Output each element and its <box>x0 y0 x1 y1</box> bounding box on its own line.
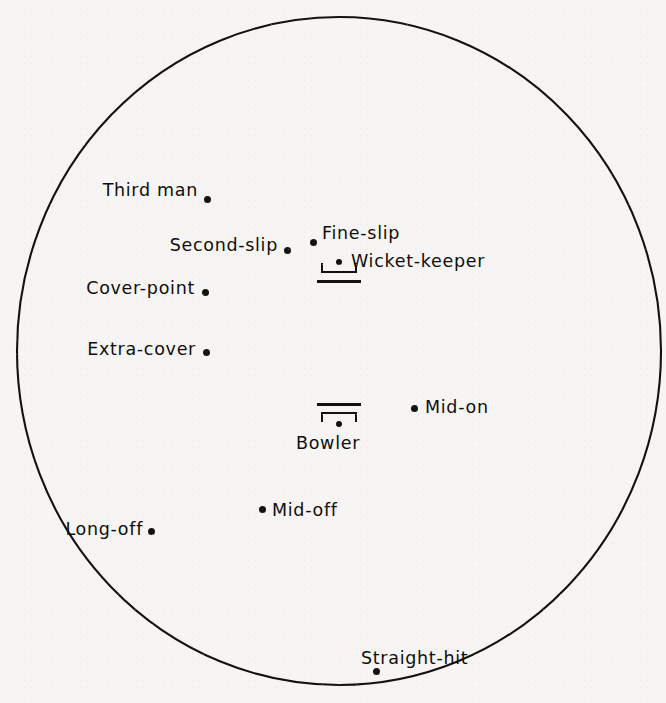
keeper-stumps-dot <box>336 259 342 265</box>
cricket-field-diagram: Third manFine-slipSecond-slipWicket-keep… <box>0 0 666 703</box>
position-label-cover-point: Cover-point <box>86 280 195 298</box>
position-marker-mid-off <box>259 506 266 513</box>
position-marker-mid-on <box>411 405 418 412</box>
position-marker-cover-point <box>202 289 209 296</box>
bowler-bowling-crease <box>317 403 361 406</box>
position-label-straight-hit: Straight-hit <box>361 650 468 668</box>
position-label-third-man: Third man <box>103 182 198 200</box>
position-label-extra-cover: Extra-cover <box>87 341 196 359</box>
position-label-mid-on: Mid-on <box>425 399 489 417</box>
bowler-return-crease-right <box>355 412 357 422</box>
position-marker-extra-cover <box>203 349 210 356</box>
bowler-popping-crease <box>321 412 357 414</box>
keeper-return-crease-left <box>321 263 323 273</box>
position-label-second-slip: Second-slip <box>170 237 278 255</box>
position-label-long-off: Long-off <box>65 521 143 539</box>
position-label-mid-off: Mid-off <box>272 502 338 520</box>
position-label-fine-slip: Fine-slip <box>322 225 400 243</box>
position-marker-fine-slip <box>310 239 317 246</box>
position-marker-third-man <box>204 196 211 203</box>
position-marker-second-slip <box>284 247 291 254</box>
position-label-wicket-keeper: Wicket-keeper <box>351 253 485 271</box>
bowler-return-crease-left <box>321 412 323 422</box>
position-label-bowler: Bowler <box>296 435 360 453</box>
bowler-stumps-dot <box>336 421 342 427</box>
bowler-crease <box>317 400 361 430</box>
position-marker-straight-hit <box>373 668 380 675</box>
keeper-popping-crease <box>321 271 357 273</box>
keeper-bowling-crease <box>317 280 361 283</box>
position-marker-long-off <box>148 528 155 535</box>
